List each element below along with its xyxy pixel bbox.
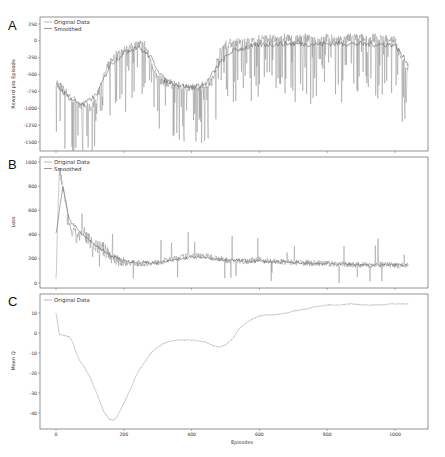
- y-tick-label: 1000: [25, 160, 37, 165]
- x-tick-label: 400: [187, 432, 196, 437]
- series-line: [56, 33, 408, 150]
- y-tick-label: -250: [27, 55, 38, 60]
- y-tick-label: -1500: [24, 140, 37, 145]
- panel-a: A 2500-250-500-750-1000-1250-1500 Reward…: [8, 17, 428, 153]
- y-tick-label: -500: [27, 72, 38, 77]
- y-tick-label: -1000: [24, 106, 37, 111]
- panel-c: C 100-10-20-30-40 02004006008001000 Mean…: [8, 294, 428, 446]
- legend-label-smoothed: Smoothed: [54, 26, 82, 32]
- y-tick-label: 0: [34, 38, 37, 43]
- legend-c: Original Data: [44, 297, 90, 304]
- y-tick-label: -750: [27, 89, 38, 94]
- plot-frame-a: [40, 17, 428, 151]
- plot-lines-a: [56, 33, 408, 150]
- x-ticks-c: 02004006008001000: [55, 429, 401, 437]
- y-tick-label: -10: [29, 351, 37, 356]
- y-tick-label: -1250: [24, 123, 37, 128]
- y-ticks-b: 10008006004002000: [25, 160, 40, 286]
- y-tick-label: 250: [28, 22, 37, 27]
- y-ticks-c: 100-10-20-30-40: [29, 311, 40, 416]
- y-tick-label: 0: [34, 331, 37, 336]
- y-tick-label: 10: [31, 311, 37, 316]
- x-tick-label: 600: [255, 432, 264, 437]
- figure: A 2500-250-500-750-1000-1250-1500 Reward…: [0, 0, 445, 457]
- series-line: [56, 168, 408, 283]
- legend-a: Original Data Smoothed: [44, 19, 90, 32]
- panel-letter-b: B: [8, 157, 17, 172]
- legend-label-original: Original Data: [54, 297, 90, 304]
- plot-frame-c: [40, 294, 428, 429]
- y-axis-label-a: Reward pro Episode: [10, 59, 17, 109]
- panel-letter-c: C: [8, 294, 17, 309]
- panel-b: B 10008006004002000 Loss Original Data S…: [8, 157, 428, 290]
- y-tick-label: -30: [29, 391, 37, 396]
- x-tick-label: 200: [119, 432, 128, 437]
- y-tick-label: 800: [28, 184, 37, 189]
- series-line: [56, 304, 408, 421]
- x-tick-label: 1000: [389, 432, 401, 437]
- y-tick-label: 0: [34, 281, 37, 286]
- x-axis-label: Episodes: [231, 439, 254, 446]
- y-tick-label: -40: [29, 411, 37, 416]
- legend-b: Original Data Smoothed: [44, 159, 90, 172]
- y-tick-label: -20: [29, 371, 37, 376]
- plot-lines-b: [56, 168, 408, 283]
- panel-letter-a: A: [8, 18, 17, 33]
- y-ticks-a: 2500-250-500-750-1000-1250-1500: [24, 22, 40, 145]
- series-line: [56, 41, 408, 105]
- y-tick-label: 400: [28, 232, 37, 237]
- y-axis-label-b: Loss: [10, 216, 16, 227]
- legend-label-smoothed: Smoothed: [54, 166, 82, 172]
- y-axis-label-c: Mean Q: [10, 351, 16, 370]
- plot-lines-c: [56, 304, 408, 421]
- y-tick-label: 600: [28, 208, 37, 213]
- x-tick-label: 0: [55, 432, 58, 437]
- y-tick-label: 200: [28, 256, 37, 261]
- x-tick-label: 800: [323, 432, 332, 437]
